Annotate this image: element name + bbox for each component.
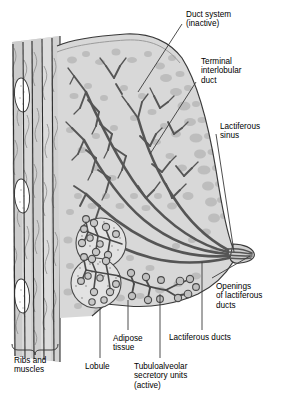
label-openings-of-lactiferous-ducts: Openings of lactiferous ducts [216,282,262,310]
label-terminal-interlobular-duct: Terminal interlobular duct [201,57,242,85]
label-lactiferous-ducts: Lactiferous ducts [169,333,231,342]
label-duct-system: Duct system (inactive) [186,10,231,29]
label-ribs-and-muscles: Ribs and muscles [14,356,46,375]
label-lobule: Lobule [85,362,110,371]
label-lactiferous-sinus: Lactiferous sinus [220,122,260,141]
ribs-and-muscles-region [8,30,64,370]
nipple-region [228,244,254,263]
label-adipose-tissue: Adipose tissue [113,334,143,353]
breast-histology-diagram: Duct system (inactive) Terminal interlob… [0,0,285,418]
label-tubuloalveolar-secretory-units: Tubuloalveolar secretory units (active) [134,362,187,390]
